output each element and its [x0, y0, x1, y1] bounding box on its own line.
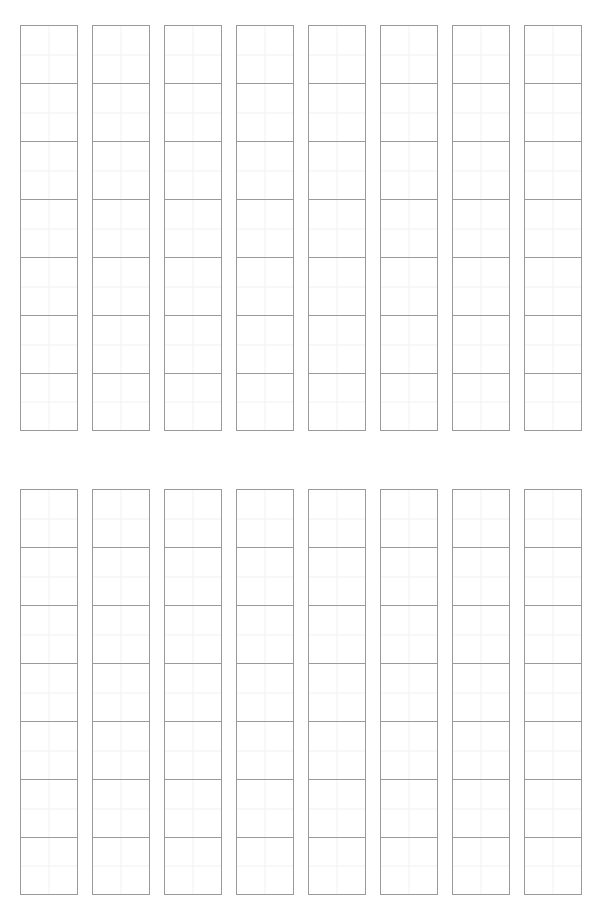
grid-block[interactable] — [236, 257, 294, 315]
grid-block[interactable] — [524, 837, 582, 895]
grid-block[interactable] — [20, 83, 78, 141]
grid-block[interactable] — [524, 141, 582, 199]
grid-block[interactable] — [236, 373, 294, 431]
grid-block[interactable] — [164, 373, 222, 431]
grid-block[interactable] — [452, 257, 510, 315]
grid-block[interactable] — [164, 257, 222, 315]
grid-block[interactable] — [92, 315, 150, 373]
grid-block[interactable] — [452, 83, 510, 141]
grid-block[interactable] — [452, 373, 510, 431]
grid-block[interactable] — [452, 605, 510, 663]
grid-block[interactable] — [92, 199, 150, 257]
grid-block[interactable] — [164, 199, 222, 257]
grid-block[interactable] — [92, 141, 150, 199]
grid-block[interactable] — [92, 257, 150, 315]
grid-block[interactable] — [452, 837, 510, 895]
grid-block[interactable] — [380, 547, 438, 605]
grid-block[interactable] — [20, 721, 78, 779]
grid-block[interactable] — [92, 547, 150, 605]
grid-block[interactable] — [308, 373, 366, 431]
grid-block[interactable] — [524, 199, 582, 257]
grid-block[interactable] — [20, 605, 78, 663]
grid-block[interactable] — [20, 373, 78, 431]
grid-block[interactable] — [164, 315, 222, 373]
grid-block[interactable] — [164, 663, 222, 721]
grid-block[interactable] — [308, 605, 366, 663]
grid-block[interactable] — [92, 779, 150, 837]
grid-block[interactable] — [236, 315, 294, 373]
grid-block[interactable] — [308, 721, 366, 779]
grid-block[interactable] — [452, 663, 510, 721]
grid-block[interactable] — [92, 837, 150, 895]
grid-block[interactable] — [524, 663, 582, 721]
grid-block[interactable] — [20, 663, 78, 721]
grid-block[interactable] — [20, 141, 78, 199]
grid-block[interactable] — [20, 257, 78, 315]
grid-block[interactable] — [380, 25, 438, 83]
grid-block[interactable] — [308, 663, 366, 721]
grid-block[interactable] — [308, 141, 366, 199]
grid-block[interactable] — [164, 837, 222, 895]
grid-block[interactable] — [308, 837, 366, 895]
grid-block[interactable] — [452, 199, 510, 257]
grid-block[interactable] — [236, 663, 294, 721]
grid-block[interactable] — [380, 257, 438, 315]
grid-block[interactable] — [164, 605, 222, 663]
grid-block[interactable] — [164, 25, 222, 83]
grid-block[interactable] — [236, 83, 294, 141]
grid-block[interactable] — [236, 547, 294, 605]
grid-block[interactable] — [380, 779, 438, 837]
grid-block[interactable] — [524, 605, 582, 663]
grid-block[interactable] — [452, 315, 510, 373]
grid-block[interactable] — [92, 489, 150, 547]
grid-block[interactable] — [524, 83, 582, 141]
grid-block[interactable] — [308, 547, 366, 605]
grid-block[interactable] — [380, 605, 438, 663]
grid-block[interactable] — [236, 141, 294, 199]
grid-block[interactable] — [308, 315, 366, 373]
grid-block[interactable] — [308, 489, 366, 547]
grid-block[interactable] — [452, 779, 510, 837]
grid-block[interactable] — [20, 25, 78, 83]
grid-block[interactable] — [20, 547, 78, 605]
grid-block[interactable] — [380, 199, 438, 257]
grid-block[interactable] — [452, 547, 510, 605]
grid-block[interactable] — [452, 489, 510, 547]
grid-block[interactable] — [92, 721, 150, 779]
grid-block[interactable] — [380, 373, 438, 431]
grid-block[interactable] — [164, 83, 222, 141]
grid-block[interactable] — [524, 721, 582, 779]
grid-block[interactable] — [236, 837, 294, 895]
grid-block[interactable] — [308, 199, 366, 257]
grid-block[interactable] — [524, 547, 582, 605]
grid-block[interactable] — [20, 199, 78, 257]
grid-block[interactable] — [92, 605, 150, 663]
grid-block[interactable] — [524, 779, 582, 837]
grid-block[interactable] — [380, 315, 438, 373]
grid-block[interactable] — [380, 141, 438, 199]
grid-block[interactable] — [524, 25, 582, 83]
grid-block[interactable] — [164, 489, 222, 547]
grid-block[interactable] — [524, 315, 582, 373]
grid-block[interactable] — [164, 779, 222, 837]
grid-block[interactable] — [524, 373, 582, 431]
grid-block[interactable] — [20, 489, 78, 547]
grid-block[interactable] — [380, 721, 438, 779]
grid-block[interactable] — [164, 721, 222, 779]
grid-block[interactable] — [308, 25, 366, 83]
grid-block[interactable] — [236, 721, 294, 779]
grid-block[interactable] — [92, 83, 150, 141]
grid-block[interactable] — [236, 199, 294, 257]
grid-block[interactable] — [92, 25, 150, 83]
grid-block[interactable] — [92, 373, 150, 431]
grid-block[interactable] — [380, 489, 438, 547]
grid-block[interactable] — [308, 83, 366, 141]
grid-block[interactable] — [20, 315, 78, 373]
grid-block[interactable] — [236, 489, 294, 547]
grid-block[interactable] — [164, 547, 222, 605]
grid-block[interactable] — [452, 721, 510, 779]
grid-block[interactable] — [524, 489, 582, 547]
grid-block[interactable] — [380, 837, 438, 895]
grid-block[interactable] — [524, 257, 582, 315]
grid-block[interactable] — [164, 141, 222, 199]
